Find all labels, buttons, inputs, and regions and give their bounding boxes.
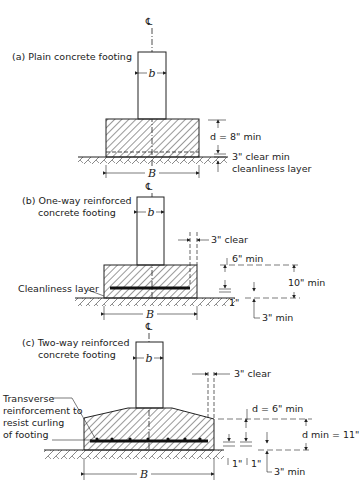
centerline-symbol: ℄ [145,181,153,192]
transverse-label-1: Transverse [2,393,54,404]
panel-c-title-2: concrete footing [38,349,116,360]
transverse-bars [95,437,201,440]
column-width-label: b [147,206,154,219]
transverse-label-2: reinforcement to [3,405,83,416]
column-width-label: b [148,67,155,80]
soil [75,298,235,306]
edge-clear-label: 3" clear [234,368,271,379]
panel-c-title-1: (c) Two-way reinforced [22,337,129,348]
column [138,52,166,119]
panel-a-title: (a) Plain concrete footing [12,51,132,62]
top-cover-label: 6" min [232,253,263,264]
transverse-label-3: resist curling [3,417,64,428]
soil [44,450,224,459]
depth-label: d = 8" min [210,131,261,142]
footing-diagram: ℄ (a) Plain concrete footing b B d = 8" … [0,0,360,486]
clear-label: 3" clear min [232,151,290,162]
footing [104,265,197,298]
total-depth-label: d min = 11" [302,429,359,440]
centerline-symbol: ℄ [145,321,153,332]
column-width-label: b [145,352,152,365]
cover-label: 3" min [274,466,305,477]
bottom-label-1: 1" [232,458,242,469]
centerline-symbol: ℄ [145,16,153,27]
panel-b-title-1: (b) One-way reinforced [22,195,132,206]
footing [84,408,214,450]
footing-width-label: B [139,468,148,481]
soil [78,157,228,164]
total-depth-label: 10" min [288,277,325,288]
panel-b-title-2: concrete footing [38,207,116,218]
edge-clear-label: 3" clear [211,234,248,245]
cover-label: 3" min [262,312,293,323]
layer-label: cleanliness layer [232,163,312,174]
layer-label: Cleanliness layer [18,283,99,294]
panel-c: ℄ (c) Two-way reinforced concrete footin… [2,321,359,481]
footing [106,119,199,157]
footing-width-label: B [147,167,156,180]
transverse-label-4: of footing [3,429,49,440]
panel-b: ℄ (b) One-way reinforced concrete footin… [18,181,325,323]
bottom-label-2: 1" [251,458,261,469]
panel-a: ℄ (a) Plain concrete footing b B d = 8" … [12,16,312,180]
bottom-label: 1" [229,297,239,308]
depth-label: d = 6" min [252,403,303,414]
footing-width-label: B [145,308,154,321]
